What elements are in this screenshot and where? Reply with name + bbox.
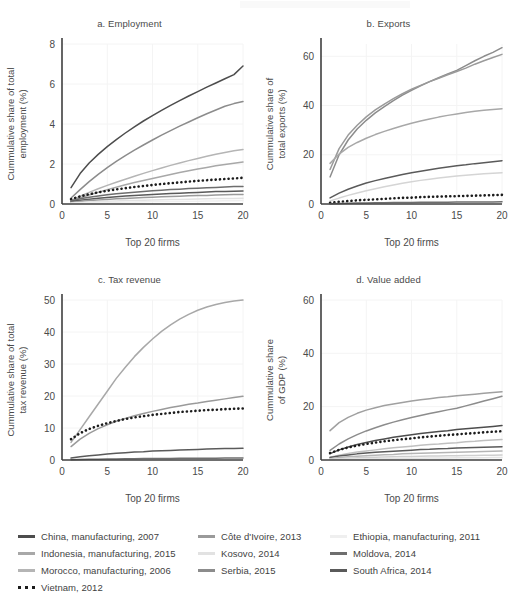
legend-item[interactable]: Indonesia, manufacturing, 2015 [18, 545, 176, 562]
series-line-moldova-2014 [330, 161, 502, 198]
legend-swatch-line-icon [198, 552, 215, 555]
legend-label: Morocco, manufacturing, 2006 [41, 565, 171, 576]
legend-label: Indonesia, manufacturing, 2015 [41, 548, 176, 559]
series-line-moldova-2014 [71, 448, 243, 458]
y-tick-label: 40 [303, 348, 315, 359]
y-tick-label: 60 [303, 295, 315, 306]
y-tick-label: 20 [44, 391, 56, 402]
legend-label: South Africa, 2014 [353, 565, 432, 576]
y-tick-label: 20 [303, 149, 315, 160]
legend-swatch-line-icon [198, 569, 215, 572]
y-tick-label: 10 [44, 423, 56, 434]
legend-item[interactable]: Ethiopia, manufacturing, 2011 [330, 528, 480, 545]
x-axis-title: Top 20 firms [384, 493, 438, 504]
chart-panel-value-added: d. Value added 051015200204060Top 20 fir… [259, 272, 518, 520]
y-tick-label: 40 [303, 100, 315, 111]
x-tick-label: 5 [104, 210, 110, 221]
y-tick-label: 4 [49, 119, 55, 130]
x-tick-label: 20 [496, 466, 508, 477]
x-tick-label: 15 [451, 466, 463, 477]
series-line-kosovo-2014 [71, 300, 243, 442]
y-axis-title-line: tax revenue (%) [17, 346, 28, 413]
y-axis-title-line: total exports (%) [276, 89, 287, 158]
x-tick-label: 10 [406, 210, 418, 221]
y-tick-label: 0 [308, 199, 314, 210]
plot-svg-c: 0510152001020304050Top 20 firmsCummulati… [0, 272, 259, 520]
legend-label: Serbia, 2015 [221, 565, 275, 576]
top-cropped-artifact [240, 1, 410, 8]
legend-item[interactable]: Moldova, 2014 [330, 545, 416, 562]
y-tick-label: 6 [49, 79, 55, 90]
y-axis-title-line: Cummulative share [264, 339, 275, 421]
legend-item[interactable]: China, manufacturing, 2007 [18, 528, 159, 545]
legend-swatch-line-icon [330, 552, 347, 555]
x-axis-title: Top 20 firms [125, 493, 179, 504]
x-tick-label: 5 [363, 466, 369, 477]
x-tick-label: 0 [59, 210, 65, 221]
legend-label: Moldova, 2014 [353, 548, 416, 559]
legend-item[interactable]: South Africa, 2014 [330, 562, 432, 579]
legend-item[interactable]: Morocco, manufacturing, 2006 [18, 562, 171, 579]
x-tick-label: 20 [496, 210, 508, 221]
legend-swatch-line-icon [18, 552, 35, 555]
chart-panel-employment: a. Employment 0510152002468Top 20 firmsC… [0, 16, 259, 264]
legend-label: Côte d'Ivoire, 2013 [221, 531, 301, 542]
y-tick-label: 0 [308, 455, 314, 466]
y-tick-label: 30 [44, 359, 56, 370]
y-tick-label: 60 [303, 51, 315, 62]
legend-swatch-line-icon [198, 535, 215, 538]
series-line-kosovo-2014 [330, 392, 502, 431]
plot-svg-b: 051015200204060Top 20 firmsCummulative s… [259, 16, 518, 264]
legend-label: Ethiopia, manufacturing, 2011 [353, 531, 480, 542]
series-line-serbia-2015 [71, 396, 243, 446]
x-tick-label: 5 [363, 210, 369, 221]
plot-svg-d: 051015200204060Top 20 firmsCummulative s… [259, 272, 518, 520]
legend-label: China, manufacturing, 2007 [41, 531, 159, 542]
plot-svg-a: 0510152002468Top 20 firmsCummulative sha… [0, 16, 259, 264]
series-line-vietnam-2012 [71, 408, 243, 439]
y-axis-title-line: Cummulative share of total [5, 324, 16, 437]
y-tick-label: 20 [303, 401, 315, 412]
chart-panel-tax-revenue: c. Tax revenue 0510152001020304050Top 20… [0, 272, 259, 520]
legend-item[interactable]: Serbia, 2015 [198, 562, 275, 579]
legend-label: Vietnam, 2012 [41, 582, 103, 593]
y-tick-label: 0 [49, 199, 55, 210]
x-tick-label: 15 [451, 210, 463, 221]
y-axis-title-line: Cummulative share of total [5, 68, 16, 181]
series-line-kosovo-2014 [330, 54, 502, 169]
x-tick-label: 20 [237, 466, 249, 477]
x-tick-label: 10 [147, 466, 159, 477]
legend-item[interactable]: Vietnam, 2012 [18, 579, 103, 596]
legend-swatch-line-icon [18, 535, 35, 538]
x-tick-label: 5 [104, 466, 110, 477]
x-axis-title: Top 20 firms [125, 237, 179, 248]
x-tick-label: 0 [318, 210, 324, 221]
x-axis-title: Top 20 firms [384, 237, 438, 248]
chart-legend: China, manufacturing, 2007Côte d'Ivoire,… [0, 524, 519, 604]
x-tick-label: 15 [192, 210, 204, 221]
y-tick-label: 8 [49, 39, 55, 50]
y-tick-label: 2 [49, 159, 55, 170]
legend-item[interactable]: Kosovo, 2014 [198, 545, 280, 562]
x-tick-label: 15 [192, 466, 204, 477]
y-tick-label: 0 [49, 455, 55, 466]
x-tick-label: 10 [147, 210, 159, 221]
x-tick-label: 20 [237, 210, 249, 221]
legend-swatch-line-icon [330, 535, 347, 538]
figure-container: a. Employment 0510152002468Top 20 firmsC… [0, 0, 519, 608]
x-tick-label: 0 [318, 466, 324, 477]
series-line-ethiopia-manufacturing-2011 [330, 48, 502, 177]
y-tick-label: 50 [44, 295, 56, 306]
y-axis-title-line: of GDP (%) [276, 356, 287, 404]
series-line-serbia-2015 [330, 396, 502, 450]
legend-swatch-line-icon [330, 569, 347, 572]
y-tick-label: 40 [44, 327, 56, 338]
y-axis-title-line: Cummulative share of [264, 77, 275, 170]
x-tick-label: 0 [59, 466, 65, 477]
legend-label: Kosovo, 2014 [221, 548, 280, 559]
y-axis-title-line: employment (%) [17, 89, 28, 158]
legend-swatch-line-icon [18, 569, 35, 572]
series-line-serbia-2015 [71, 102, 243, 198]
x-tick-label: 10 [406, 466, 418, 477]
legend-item[interactable]: Côte d'Ivoire, 2013 [198, 528, 301, 545]
